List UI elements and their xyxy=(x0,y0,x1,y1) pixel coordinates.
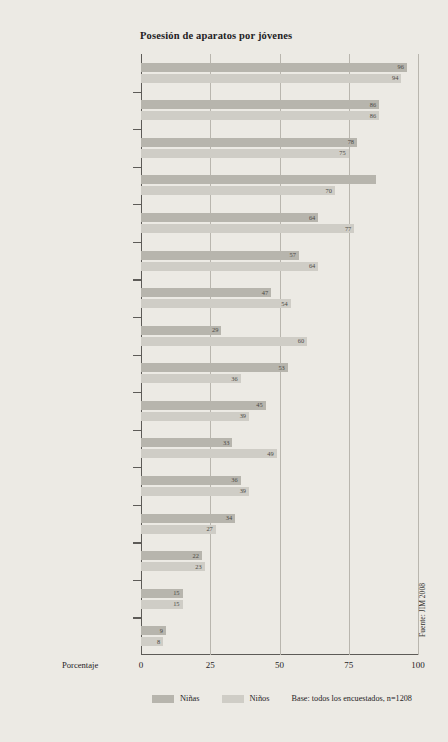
bar-ninos xyxy=(141,487,249,496)
category-tick-6 xyxy=(133,279,141,280)
category-tick-8 xyxy=(133,355,141,356)
bar-ninas xyxy=(141,476,241,485)
legend-swatch-ninos xyxy=(222,695,244,703)
bar-value-label: 75 xyxy=(339,150,345,156)
bar-value-label: 64 xyxy=(309,263,315,269)
bar-value-label: 57 xyxy=(290,252,296,258)
bar-value-label: 70 xyxy=(326,188,332,194)
bar-value-label: 94 xyxy=(392,75,398,81)
bar-value-label: 22 xyxy=(193,552,199,558)
bar-row xyxy=(141,175,418,184)
legend-item-ninas: Niñas xyxy=(152,694,200,703)
bar-value-label: 77 xyxy=(345,225,351,231)
bar-ninos xyxy=(141,374,241,383)
category-tick-5 xyxy=(133,242,141,243)
bar-row: 64 xyxy=(141,213,418,222)
bar-ninos xyxy=(141,74,401,83)
bar-row: 94 xyxy=(141,74,418,83)
bar-value-label: 36 xyxy=(231,477,237,483)
source-note: Fuente: JIM 2008 xyxy=(418,583,427,637)
x-tick-label-0: 0 xyxy=(139,660,144,670)
category-tick-9 xyxy=(133,392,141,393)
bar-ninas xyxy=(141,401,266,410)
x-tick-label-100: 100 xyxy=(411,660,425,670)
legend: Niñas Niños Base: todos los encuestados,… xyxy=(152,694,412,703)
x-axis-title: Porcentaje xyxy=(62,660,98,670)
bar-row: 47 xyxy=(141,288,418,297)
category-tick-14 xyxy=(133,580,141,581)
bar-ninas xyxy=(141,100,379,109)
bar-row: 54 xyxy=(141,299,418,308)
bar-ninas xyxy=(141,175,376,184)
bar-row: 23 xyxy=(141,562,418,571)
bar-value-label: 36 xyxy=(231,376,237,382)
bar-row: 96 xyxy=(141,63,418,72)
bar-ninos xyxy=(141,525,216,534)
bar-row: 77 xyxy=(141,224,418,233)
page-title: Posesión de aparatos por jóvenes xyxy=(140,30,292,41)
bar-ninas xyxy=(141,514,235,523)
bar-value-label: 27 xyxy=(206,526,212,532)
bar-ninas xyxy=(141,288,271,297)
bar-ninas xyxy=(141,251,299,260)
bar-row: 36 xyxy=(141,374,418,383)
legend-item-ninos: Niños xyxy=(222,694,270,703)
bar-value-label: 15 xyxy=(173,601,179,607)
bar-row: 39 xyxy=(141,412,418,421)
bar-value-label: 53 xyxy=(278,365,284,371)
bar-ninos xyxy=(141,412,249,421)
category-tick-1 xyxy=(133,92,141,93)
bar-row: 15 xyxy=(141,589,418,598)
category-tick-2 xyxy=(133,129,141,130)
bar-value-label: 45 xyxy=(256,402,262,408)
bar-row: 57 xyxy=(141,251,418,260)
bar-value-label: 86 xyxy=(370,102,376,108)
category-tick-11 xyxy=(133,467,141,468)
bar-ninas xyxy=(141,326,221,335)
bar-value-label: 47 xyxy=(262,289,268,295)
bar-row: 45 xyxy=(141,401,418,410)
bar-value-label: 64 xyxy=(309,214,315,220)
legend-label-ninos: Niños xyxy=(250,694,270,703)
bar-ninas xyxy=(141,138,357,147)
bar-value-label: 15 xyxy=(173,590,179,596)
x-tick-label-25: 25 xyxy=(206,660,215,670)
bar-ninos xyxy=(141,111,379,120)
category-tick-12 xyxy=(133,505,141,506)
bar-row: 70 xyxy=(141,186,418,195)
bar-ninas xyxy=(141,213,318,222)
category-tick-7 xyxy=(133,317,141,318)
bar-value-label: 60 xyxy=(298,338,304,344)
category-tick-10 xyxy=(133,430,141,431)
bar-row: 49 xyxy=(141,449,418,458)
bar-value-label: 49 xyxy=(267,451,273,457)
bar-value-label: 86 xyxy=(370,113,376,119)
grid-line-100 xyxy=(418,54,419,655)
bar-row: 86 xyxy=(141,100,418,109)
bar-ninos xyxy=(141,149,349,158)
bar-row: 22 xyxy=(141,551,418,560)
bar-row: 64 xyxy=(141,262,418,271)
bar-value-label: 9 xyxy=(160,628,163,634)
bar-value-label: 34 xyxy=(226,515,232,521)
legend-swatch-ninas xyxy=(152,695,174,703)
category-tick-15 xyxy=(133,617,141,618)
bar-value-label: 39 xyxy=(240,413,246,419)
bar-row: 53 xyxy=(141,363,418,372)
bar-value-label: 8 xyxy=(157,639,160,645)
category-tick-13 xyxy=(133,542,141,543)
bar-row: 78 xyxy=(141,138,418,147)
bar-ninas xyxy=(141,438,232,447)
bar-ninas xyxy=(141,363,288,372)
bar-value-label: 54 xyxy=(281,300,287,306)
x-tick-label-75: 75 xyxy=(344,660,353,670)
bar-ninos xyxy=(141,337,307,346)
legend-label-ninas: Niñas xyxy=(180,694,200,703)
bar-value-label: 33 xyxy=(223,440,229,446)
bar-row: 36 xyxy=(141,476,418,485)
bar-row: 39 xyxy=(141,487,418,496)
legend-base-note: Base: todos los encuestados, n=1208 xyxy=(292,694,412,703)
bar-row: 8 xyxy=(141,637,418,646)
chart-page: Posesión de aparatos por jóvenes 9694868… xyxy=(0,0,448,742)
bar-ninos xyxy=(141,186,335,195)
